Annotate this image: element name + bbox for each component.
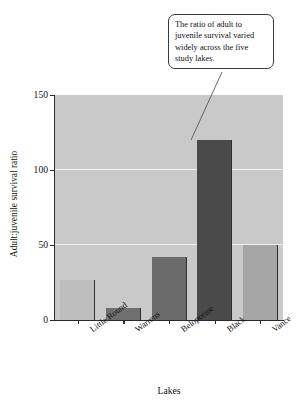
y-tick-mark (50, 245, 54, 246)
x-tick-mark (78, 320, 79, 324)
x-tick-mark (215, 320, 216, 324)
y-tick-label: 0 (12, 315, 48, 325)
x-tick-label-vance: Vance (270, 326, 276, 334)
bar-little-round (60, 280, 95, 321)
bar-vance (243, 245, 278, 320)
x-tick-label-warrens: Warrens (133, 326, 139, 334)
x-tick-mark (260, 320, 261, 324)
x-tick-label-little-round: Little Round (88, 326, 94, 334)
plot-area (55, 95, 283, 320)
y-tick-mark (50, 320, 54, 321)
callout-line-2: juvenile survival varied (175, 30, 268, 41)
x-axis-title: Lakes (55, 385, 283, 396)
y-tick-label: 150 (12, 90, 48, 100)
callout-line-4: study lakes. (175, 53, 268, 64)
y-tick-mark (50, 170, 54, 171)
x-tick-mark (169, 320, 170, 324)
x-tick-label-beloporine: Beloporine (179, 326, 185, 334)
callout-annotation: The ratio of adult to juvenile survival … (168, 14, 274, 69)
gridline (55, 169, 283, 170)
x-tick-label-black: Black (225, 326, 231, 334)
y-axis-line (54, 95, 55, 321)
x-tick-mark (123, 320, 124, 324)
callout-line-3: widely across the five (175, 42, 268, 53)
y-tick-mark (50, 95, 54, 96)
y-axis-title: Adult:juvenile survival ratio (9, 119, 19, 289)
bar-black (197, 140, 232, 320)
callout-line-1: The ratio of adult to (175, 19, 268, 30)
bar-chart-figure: The ratio of adult to juvenile survival … (0, 0, 296, 409)
